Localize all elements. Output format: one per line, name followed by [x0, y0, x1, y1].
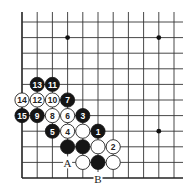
go-board-diagram: 123456789101112131415 AB	[0, 0, 195, 195]
move-number: 1	[96, 127, 101, 137]
move-number: 5	[50, 127, 55, 137]
move-number: 8	[50, 111, 55, 121]
move-number: 12	[32, 95, 42, 105]
move-number: 2	[111, 142, 116, 152]
star-point-icon	[156, 35, 161, 40]
white-stone: 2	[106, 140, 120, 154]
black-stone: 13	[30, 77, 44, 91]
black-stone: 3	[76, 109, 90, 123]
black-stone: 15	[15, 109, 29, 123]
black-stone	[76, 140, 90, 154]
svg-text:A: A	[64, 157, 72, 169]
black-stone: 9	[30, 109, 44, 123]
move-number: 6	[65, 111, 70, 121]
white-stone: 6	[61, 109, 75, 123]
move-number: 10	[48, 95, 58, 105]
black-stone	[61, 140, 75, 154]
move-number: 13	[32, 80, 42, 90]
black-stone: 1	[91, 124, 105, 138]
white-stone	[91, 140, 105, 154]
move-number: 7	[65, 95, 70, 105]
white-stone	[106, 155, 120, 169]
point-marker-b: B	[94, 172, 103, 185]
black-stone: 5	[45, 124, 59, 138]
star-point-icon	[65, 35, 70, 40]
move-number: 15	[17, 111, 27, 121]
svg-text:B: B	[94, 173, 101, 185]
white-stone: 14	[15, 93, 29, 107]
move-number: 4	[65, 127, 70, 137]
black-stone	[91, 155, 105, 169]
point-marker-a: A	[63, 156, 72, 169]
move-number: 11	[48, 80, 57, 90]
white-stone: 12	[30, 93, 44, 107]
white-stone: 4	[61, 124, 75, 138]
move-number: 14	[17, 95, 27, 105]
black-stone: 7	[61, 93, 75, 107]
white-stone	[76, 124, 90, 138]
move-number: 9	[35, 111, 40, 121]
black-stone: 11	[45, 77, 59, 91]
white-stone: 8	[45, 109, 59, 123]
move-number: 3	[80, 111, 85, 121]
white-stone	[76, 155, 90, 169]
white-stone: 10	[45, 93, 59, 107]
star-point-icon	[156, 129, 161, 134]
